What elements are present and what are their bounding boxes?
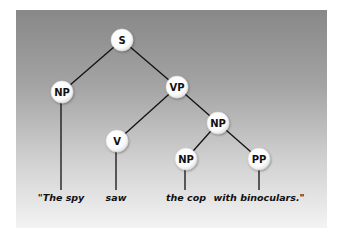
word-the-cop: the cop bbox=[166, 192, 206, 203]
node-label-v: V bbox=[113, 136, 121, 147]
node-label-np-object: NP bbox=[210, 118, 226, 129]
edge-s-np bbox=[62, 40, 122, 92]
node-label-vp: VP bbox=[169, 82, 184, 93]
edge-vp-v bbox=[117, 87, 177, 141]
node-label-s: S bbox=[118, 35, 125, 46]
word-with-binoculars: with binoculars." bbox=[214, 192, 305, 203]
word-saw: saw bbox=[106, 192, 127, 203]
word-the-spy: "The spy bbox=[38, 192, 85, 203]
node-label-pp: PP bbox=[252, 154, 267, 165]
tree-edges bbox=[61, 40, 259, 190]
node-label-np-the-cop: NP bbox=[178, 154, 194, 165]
node-label-np-subject: NP bbox=[54, 87, 70, 98]
